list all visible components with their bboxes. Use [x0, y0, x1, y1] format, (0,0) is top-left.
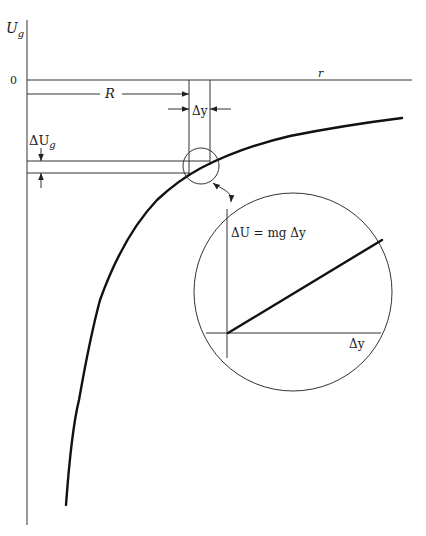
- y-axis-label: Ug: [6, 20, 24, 39]
- potential-energy-diagram: Ug 0 r R Δy ΔUg ΔU = mg Δy Δy: [0, 0, 426, 536]
- magnify-connector: [213, 183, 231, 202]
- r-axis-label: r: [318, 67, 324, 80]
- inset-x-label: Δy: [349, 337, 365, 351]
- magnifier-circle: [183, 148, 219, 184]
- inset-linear-segment: [228, 240, 382, 333]
- R-label: R: [104, 86, 115, 101]
- origin-label: 0: [10, 74, 17, 87]
- delta-y-label: Δy: [192, 104, 208, 118]
- delta-Ug-label: ΔUg: [29, 133, 56, 150]
- potential-curve: [66, 118, 402, 505]
- inset-circle: [194, 193, 392, 391]
- inset-equation: ΔU = mg Δy: [231, 226, 306, 240]
